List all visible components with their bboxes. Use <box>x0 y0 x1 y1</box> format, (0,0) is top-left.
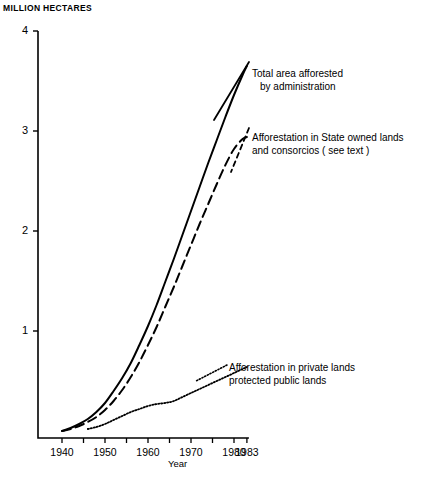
annotation-total-line1: Total area afforested <box>252 68 343 79</box>
x-tick-label-1940: 1940 <box>42 446 82 458</box>
annotation-state-line2: and consorcios ( see text ) <box>252 145 404 158</box>
x-tick-label-1983: 1983 <box>227 446 267 458</box>
y-tick-label-3: 3 <box>6 124 28 136</box>
annotation-private-lands: Afforestation in private lands protected… <box>229 362 355 387</box>
y-tick-label-2: 2 <box>6 224 28 236</box>
series-line-dashed <box>62 137 247 431</box>
y-tick-label-4: 4 <box>6 24 28 36</box>
annotation-total-line2: by administration <box>252 81 343 94</box>
series-line-dotted <box>88 367 247 429</box>
data-series <box>62 66 247 431</box>
annotation-leader-lines <box>196 62 249 381</box>
y-tick-label-1: 1 <box>6 324 28 336</box>
series-line-solid <box>62 66 247 431</box>
annotation-total-area: Total area afforested by administration <box>252 68 343 93</box>
annotation-state-lands: Afforestation in State owned lands and c… <box>252 132 404 157</box>
plot-area <box>0 0 432 482</box>
x-tick-label-1970: 1970 <box>171 446 211 458</box>
afforestation-line-chart: MILLION HECTARES 1234 194019501960197019… <box>0 0 432 482</box>
annotation-private-line1: Afforestation in private lands <box>229 362 355 373</box>
x-axis-title: Year <box>168 458 187 469</box>
annotation-state-line1: Afforestation in State owned lands <box>252 132 404 143</box>
x-tick-label-1950: 1950 <box>85 446 125 458</box>
annotation-private-line2: protected public lands <box>229 375 355 388</box>
x-tick-label-1960: 1960 <box>128 446 168 458</box>
leader-total <box>214 62 249 120</box>
